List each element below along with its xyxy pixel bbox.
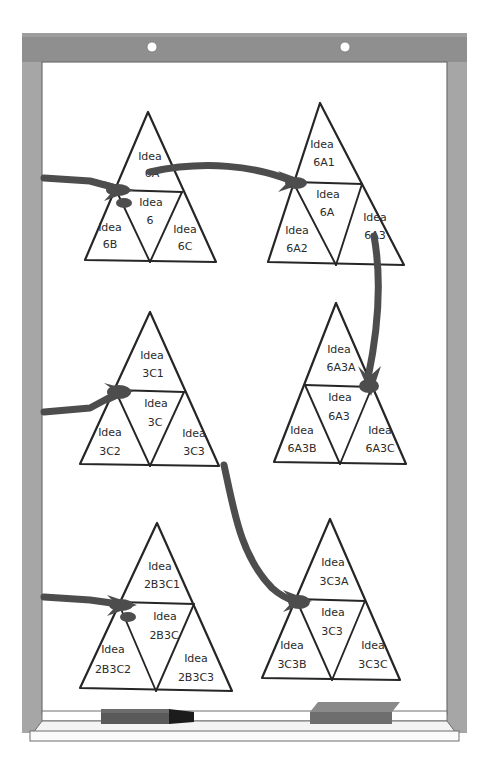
tri-6A-left-label-line1: Idea bbox=[285, 224, 309, 237]
eraser-top-face bbox=[310, 702, 400, 712]
tri-2B3C-top-label-line1: Idea bbox=[148, 560, 172, 573]
frame-right-rail bbox=[447, 33, 467, 733]
tri-6-left-label-line1: Idea bbox=[98, 221, 122, 234]
tri-6A-right-label-line1: Idea bbox=[363, 211, 387, 224]
mount-screw-left-icon bbox=[147, 42, 157, 52]
tri-6-right-label-line1: Idea bbox=[173, 223, 197, 236]
tri-6-center-label-line2: 6 bbox=[147, 214, 154, 227]
tri-3C-top-label-line2: 3C1 bbox=[142, 367, 164, 380]
tri-6A3-right-label-line2: 6A3C bbox=[365, 442, 395, 455]
tri-6A3-center-label-line2: 6A3 bbox=[328, 410, 350, 423]
tri-3C3-center-label-line2: 3C3 bbox=[321, 625, 343, 638]
tri-3C-right-label-line1: Idea bbox=[182, 427, 206, 440]
tri-3C3-left-label-line2: 3C3B bbox=[277, 658, 306, 671]
arrow-offscreen-to-tri-3C-blot bbox=[107, 385, 131, 399]
tri-6-left-label-line2: 6B bbox=[103, 238, 118, 251]
eraser-front-face bbox=[310, 712, 392, 724]
arrow-tri-3C-to-tri-3C3-blot bbox=[288, 595, 310, 609]
tri-6A3-center-label-line1: Idea bbox=[328, 391, 352, 404]
arrow-offscreen-to-tri-2B3C-blot2 bbox=[120, 612, 136, 622]
whiteboard-eraser[interactable] bbox=[310, 702, 400, 724]
tri-3C-center-label-line1: Idea bbox=[144, 397, 168, 410]
tri-3C3-top-label-line2: 3C3A bbox=[319, 575, 349, 588]
arrow-offscreen-to-tri-6-blot2 bbox=[116, 198, 132, 208]
whiteboard-canvas: Idea 6A Idea 6 Idea 6B Idea 6C Idea 6A1 … bbox=[0, 0, 491, 770]
tri-2B3C-left-label-line2: 2B3C2 bbox=[95, 663, 131, 676]
tri-6A-top-label-line2: 6A1 bbox=[313, 156, 335, 169]
tri-6-top-label-line1: Idea bbox=[138, 150, 162, 163]
tri-3C-top-label-line1: Idea bbox=[140, 349, 164, 362]
arrow-tri-6A-to-tri-6A3-blot bbox=[359, 379, 379, 393]
tri-3C3-right-label-line1: Idea bbox=[361, 639, 385, 652]
whiteboard-scene: Idea 6A Idea 6 Idea 6B Idea 6C Idea 6A1 … bbox=[0, 0, 491, 770]
tri-3C3-top-label-line1: Idea bbox=[321, 556, 345, 569]
tri-2B3C-center-label-line2: 2B3C bbox=[149, 629, 179, 642]
tri-3C3-center-label-line1: Idea bbox=[321, 606, 345, 619]
tri-3C3-left-label-line1: Idea bbox=[280, 639, 304, 652]
arrow-offscreen-to-tri-2B3C-blot bbox=[109, 599, 133, 611]
tri-6A-center-label-line2: 6A bbox=[320, 206, 335, 219]
tri-2B3C-center-label-line1: Idea bbox=[153, 610, 177, 623]
tri-6A3-left-label-line1: Idea bbox=[290, 424, 314, 437]
tri-3C-right-label-line2: 3C3 bbox=[183, 445, 205, 458]
frame-top-bar bbox=[22, 33, 467, 62]
board-surface bbox=[42, 62, 447, 714]
frame-top-highlight bbox=[22, 33, 467, 37]
tri-3C-left-label-line2: 3C2 bbox=[99, 445, 121, 458]
tri-3C-left-label-line1: Idea bbox=[98, 426, 122, 439]
tri-6A-center-label-line1: Idea bbox=[316, 188, 340, 201]
tri-6A-top-label-line1: Idea bbox=[310, 138, 334, 151]
tri-6-right-label-line2: 6C bbox=[178, 240, 193, 253]
tri-2B3C-left-label-line1: Idea bbox=[101, 643, 125, 656]
tri-3C-center-label-line2: 3C bbox=[148, 416, 163, 429]
marker-body-highlight bbox=[101, 709, 169, 713]
tray-front-face bbox=[30, 731, 459, 741]
tri-2B3C-right-label-line1: Idea bbox=[184, 652, 208, 665]
tri-2B3C-top-label-line2: 2B3C1 bbox=[144, 578, 180, 591]
whiteboard-marker[interactable] bbox=[101, 709, 194, 724]
tri-6A3-left-label-line2: 6A3B bbox=[287, 442, 316, 455]
frame-left-rail bbox=[22, 33, 42, 733]
tri-6-center-label-line1: Idea bbox=[139, 196, 163, 209]
tri-6A3-right-label-line1: Idea bbox=[368, 424, 392, 437]
tri-3C3-right-label-line2: 3C3C bbox=[358, 658, 388, 671]
mount-screw-right-icon bbox=[340, 42, 350, 52]
tri-6A3-top-label-line2: 6A3A bbox=[326, 361, 356, 374]
tri-6A-left-label-line2: 6A2 bbox=[286, 242, 308, 255]
tri-6A3-top-label-line1: Idea bbox=[327, 343, 351, 356]
board-frame bbox=[22, 33, 467, 733]
arrow-tri-6-to-tri-6A-blot bbox=[285, 177, 307, 189]
arrow-offscreen-to-tri-6-blot bbox=[106, 184, 130, 196]
tri-2B3C-right-label-line2: 2B3C3 bbox=[178, 671, 214, 684]
